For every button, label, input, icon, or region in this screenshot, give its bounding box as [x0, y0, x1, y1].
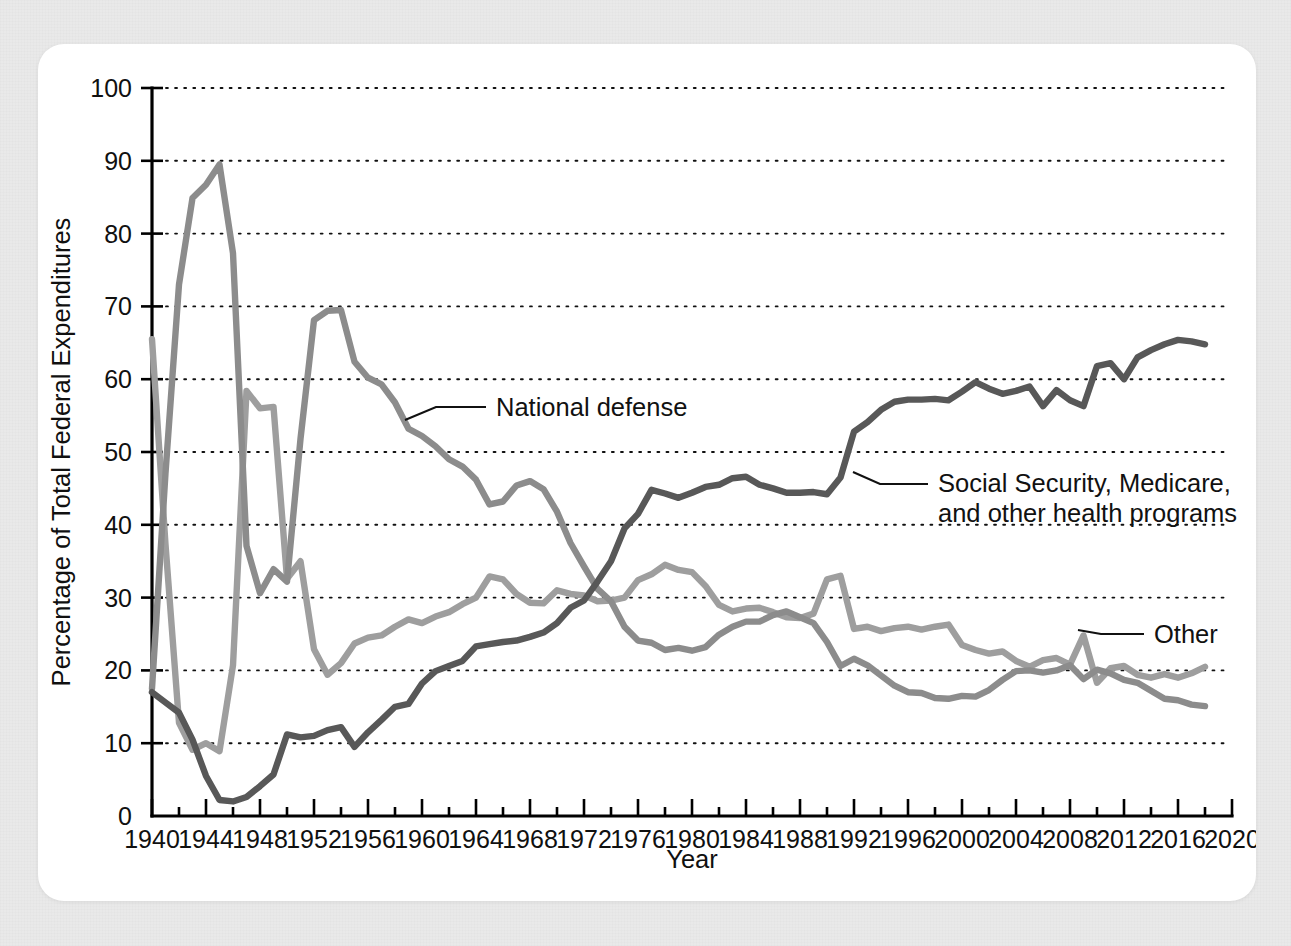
- annotation-leader-line: [1078, 630, 1144, 634]
- annotation-label-social-security-line1: Social Security, Medicare,: [938, 469, 1231, 497]
- y-tick-label: 90: [104, 147, 132, 175]
- x-tick-label: 1968: [502, 825, 558, 853]
- annotation-leader-line: [853, 472, 928, 484]
- annotation-social-security: Social Security, Medicare, and other hea…: [853, 469, 1237, 527]
- x-tick-label: 1988: [772, 825, 828, 853]
- x-tick-label: 1948: [232, 825, 288, 853]
- x-tick-label: 1976: [610, 825, 666, 853]
- x-tick-label: 2008: [1042, 825, 1098, 853]
- x-tick-label: 1984: [718, 825, 774, 853]
- x-tick-label: 1964: [448, 825, 504, 853]
- annotation-label-social-security-line2: and other health programs: [938, 499, 1237, 527]
- x-tick-label: 1972: [556, 825, 612, 853]
- y-axis-title: Percentage of Total Federal Expenditures: [47, 218, 75, 687]
- y-tick-label: 50: [104, 438, 132, 466]
- x-tick-label: 1944: [178, 825, 234, 853]
- grid-lines: [166, 88, 1226, 743]
- x-tick-label: 2000: [934, 825, 990, 853]
- annotation-label-other: Other: [1154, 620, 1218, 648]
- y-axis-tick-labels: 0102030405060708090100: [90, 74, 132, 830]
- y-tick-label: 100: [90, 74, 132, 102]
- x-axis-ticks: [152, 799, 1232, 816]
- x-tick-label: 1996: [880, 825, 936, 853]
- x-tick-label: 2004: [988, 825, 1044, 853]
- y-tick-label: 60: [104, 365, 132, 393]
- x-tick-label: 1940: [124, 825, 180, 853]
- y-tick-label: 70: [104, 292, 132, 320]
- y-tick-label: 80: [104, 220, 132, 248]
- annotation-leader-line: [405, 407, 486, 420]
- expenditures-line-chart: 0102030405060708090100 19401944194819521…: [38, 44, 1256, 901]
- annotation-other: Other: [1078, 620, 1218, 648]
- y-tick-label: 10: [104, 729, 132, 757]
- y-tick-label: 30: [104, 584, 132, 612]
- x-tick-label: 2012: [1096, 825, 1152, 853]
- annotation-national-defense: National defense: [405, 393, 687, 421]
- x-tick-label: 2016: [1150, 825, 1206, 853]
- x-tick-label: 1992: [826, 825, 882, 853]
- y-tick-label: 40: [104, 511, 132, 539]
- x-tick-label: 1952: [286, 825, 342, 853]
- x-tick-label: 1956: [340, 825, 396, 853]
- x-tick-label: 2020: [1204, 825, 1256, 853]
- x-tick-label: 1960: [394, 825, 450, 853]
- annotation-label-national-defense: National defense: [496, 393, 687, 421]
- y-tick-label: 20: [104, 656, 132, 684]
- x-axis-title: Year: [666, 845, 718, 873]
- figure-card: 0102030405060708090100 19401944194819521…: [38, 44, 1256, 901]
